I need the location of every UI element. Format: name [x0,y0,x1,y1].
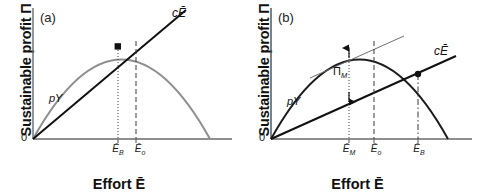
panel-b: Sustainable profit Π Effort Ē (b) 0 [238,0,477,193]
panel-a: Sustainable profit Π Effort Ē (a) 0 pY [0,0,238,193]
tick-label-Eo-sub-b: o [377,149,381,156]
max-profit-label-sub-b: M [341,71,347,80]
tick-label-EM-base-b: Ē [343,143,350,154]
tick-label-EB-b: ĒB [413,143,424,156]
cost-line-label-text-b: cĒ [434,44,448,58]
tick-label-Eo-a: Ēo [135,143,146,156]
cost-line-label-text-a: cĒ [172,6,186,20]
equilibrium-marker-a [115,43,121,49]
tick-label-EM-sub-b: M [349,149,355,156]
tick-label-EB-base-a: Ē [112,143,119,154]
cost-line-label-a: cĒ [172,6,186,20]
max-profit-label-b: ΠM [333,65,347,80]
revenue-curve-label-a: pY [49,92,62,104]
plot-area-b [238,0,477,193]
tick-label-EB-sub-a: B [119,149,124,156]
revenue-curve-label-text-b: pY [287,95,300,107]
tick-label-Eo-b: Ēo [371,143,382,156]
tick-label-Eo-sub-a: o [141,149,145,156]
revenue-curve-label-b: pY [287,95,300,107]
figure-container: Sustainable profit Π Effort Ē (a) 0 pY [0,0,477,193]
tick-label-Eo-base-b: Ē [371,143,378,154]
tick-label-EM-b: ĒM [343,143,356,156]
tangent-line-b [310,36,404,78]
tick-label-EB-a: ĒB [112,143,123,156]
equilibrium-marker-b [415,71,421,77]
revenue-curve-label-text-a: pY [49,92,62,104]
cost-line-a [33,10,186,139]
tick-label-EB-base-b: Ē [413,143,420,154]
tick-label-Eo-base-a: Ē [135,143,142,154]
cost-line-label-b: cĒ [434,44,448,58]
plot-area-a [0,0,238,193]
tick-label-EB-sub-b: B [420,149,425,156]
max-profit-label-base-b: Π [333,65,341,77]
